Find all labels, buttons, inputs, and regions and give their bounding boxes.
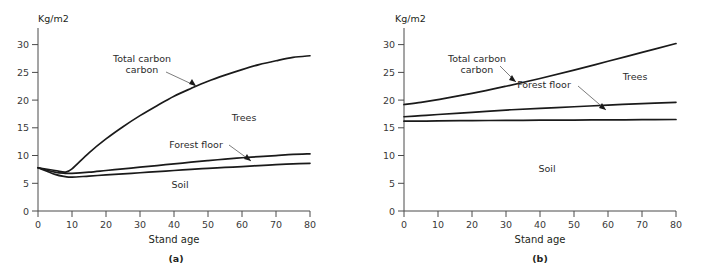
y-tick-label: 0 [389,206,395,217]
x-axis-title-a: Stand age [149,234,200,245]
annotation-label: Total carbon [447,53,506,64]
y-tick-label: 0 [23,206,29,217]
y-tick-label: 30 [383,39,395,50]
annotation-label-line2: carbon [461,64,494,75]
x-tick-label: 60 [602,219,614,230]
x-tick-label: 30 [500,219,512,230]
x-tick-label: 50 [202,219,214,230]
y-tick-label: 5 [23,178,29,189]
x-axis-ticks-b [404,211,676,217]
series-curves-a [38,56,310,177]
y-tick-label: 25 [383,67,395,78]
annotation-label-trees-b: Trees [622,71,648,82]
curve-forest-floor [404,102,676,116]
x-tick-label: 0 [35,219,41,230]
x-tick-label: 80 [304,219,316,230]
x-tick-label: 10 [432,219,444,230]
panel-caption-a: (a) [168,253,183,264]
y-tick-label: 10 [17,150,29,161]
y-tick-label: 25 [17,67,29,78]
y-tick-label: 30 [17,39,29,50]
x-tick-label: 70 [270,219,282,230]
x-tick-label: 30 [134,219,146,230]
annotation-total-carbon-b: Total carbon carbon [447,53,516,82]
y-axis-ticks-b [398,45,404,211]
y-axis-tick-labels-b: 0 5 10 15 20 25 30 [383,39,395,216]
x-tick-label: 70 [636,219,648,230]
annotation-label-soil-a: Soil [171,179,188,190]
y-axis-unit-label-a: Kg/m2 [38,13,69,24]
y-tick-label: 20 [17,95,29,106]
annotation-label: Forest floor [517,79,571,90]
x-axis-tick-labels-b: 0 10 20 30 40 50 60 70 80 [401,219,682,230]
figure-carbon-accumulation: Kg/m2 0 5 10 15 20 25 30 [0,0,705,272]
annotation-label-trees-a: Trees [231,112,257,123]
x-tick-label: 10 [66,219,78,230]
y-tick-label: 15 [17,122,29,133]
x-tick-label: 20 [466,219,478,230]
x-tick-label: 80 [670,219,682,230]
chart-panel-b: Kg/m2 0 5 10 15 20 25 30 [352,0,704,272]
y-axis-ticks-a [32,45,38,211]
x-tick-label: 50 [568,219,580,230]
curve-soil [404,120,676,122]
y-axis-tick-labels-a: 0 5 10 15 20 25 30 [17,39,29,216]
chart-panel-a: Kg/m2 0 5 10 15 20 25 30 [0,0,352,272]
y-tick-label: 15 [383,122,395,133]
y-axis-unit-label-b: Kg/m2 [395,13,426,24]
annotation-label-line2: carbon [126,64,159,75]
x-tick-label: 20 [100,219,112,230]
annotation-label: Forest floor [169,139,223,150]
x-axis-title-b: Stand age [515,234,566,245]
y-tick-label: 20 [383,95,395,106]
panel-caption-b: (b) [532,253,547,264]
annotation-total-carbon-a: Total carbon carbon [112,53,196,86]
curve-total-carbon [38,56,310,172]
x-axis-ticks-a [38,211,310,217]
x-tick-label: 40 [534,219,546,230]
annotation-label-soil-b: Soil [538,163,555,174]
x-tick-label: 40 [168,219,180,230]
y-tick-label: 10 [383,150,395,161]
x-tick-label: 0 [401,219,407,230]
curve-soil [38,163,310,177]
annotation-label: Total carbon [112,53,171,64]
x-tick-label: 60 [236,219,248,230]
y-tick-label: 5 [389,178,395,189]
x-axis-tick-labels-a: 0 10 20 30 40 50 60 70 80 [35,219,316,230]
